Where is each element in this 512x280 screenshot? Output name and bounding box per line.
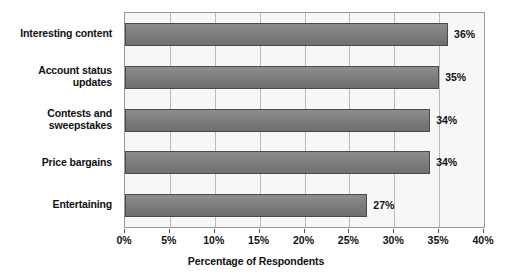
category-label-line: Price bargains xyxy=(0,156,112,169)
bar xyxy=(125,151,430,174)
category-label: Price bargains xyxy=(0,156,112,169)
bar xyxy=(125,194,367,217)
category-label: Contests andsweepstakes xyxy=(0,107,112,132)
x-tick-label: 30% xyxy=(383,234,404,246)
bar-value-label: 35% xyxy=(445,66,466,89)
category-label-line: Entertaining xyxy=(0,198,112,211)
category-label-line: Interesting content xyxy=(0,27,112,40)
bar-value-label: 34% xyxy=(436,109,457,132)
category-label: Interesting content xyxy=(0,27,112,40)
bar-value-label: 27% xyxy=(373,194,394,217)
bar xyxy=(125,23,448,46)
x-tick-mark xyxy=(169,229,170,233)
x-tick-mark xyxy=(483,229,484,233)
category-label: Entertaining xyxy=(0,198,112,211)
plot-area: 36%35%34%34%27% xyxy=(124,12,485,228)
category-label-line: sweepstakes xyxy=(0,119,112,132)
x-tick-mark xyxy=(438,229,439,233)
category-label-line: Contests and xyxy=(0,107,112,120)
x-tick-label: 20% xyxy=(293,234,314,246)
x-tick-label: 40% xyxy=(472,234,493,246)
category-label: Account statusupdates xyxy=(0,64,112,89)
bar xyxy=(125,109,430,132)
x-tick-label: 5% xyxy=(161,234,176,246)
plot-inner: 36%35%34%34%27% xyxy=(125,13,484,227)
x-tick-mark xyxy=(124,229,125,233)
x-tick-label: 0% xyxy=(116,234,131,246)
x-tick-mark xyxy=(304,229,305,233)
bar-chart: Interesting contentAccount statusupdates… xyxy=(0,0,512,280)
x-tick-label: 15% xyxy=(248,234,269,246)
bar-value-label: 34% xyxy=(436,151,457,174)
x-tick-label: 10% xyxy=(203,234,224,246)
x-tick-mark xyxy=(259,229,260,233)
x-tick-mark xyxy=(393,229,394,233)
bar xyxy=(125,66,439,89)
bar-value-label: 36% xyxy=(454,23,475,46)
x-tick-label: 35% xyxy=(428,234,449,246)
x-axis: 0%5%10%15%20%25%30%35%40% xyxy=(124,229,485,249)
category-axis-labels: Interesting contentAccount statusupdates… xyxy=(0,12,118,228)
x-tick-mark xyxy=(348,229,349,233)
category-label-line: updates xyxy=(0,76,112,89)
x-tick-mark xyxy=(214,229,215,233)
x-axis-title: Percentage of Respondents xyxy=(0,255,512,267)
x-tick-label: 25% xyxy=(338,234,359,246)
category-label-line: Account status xyxy=(0,64,112,77)
